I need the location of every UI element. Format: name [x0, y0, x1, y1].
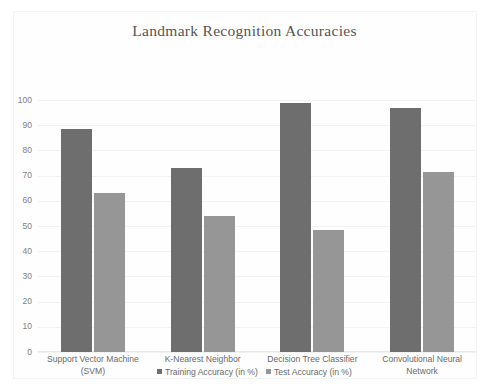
bar-test [94, 193, 125, 352]
y-axis-tick-label: 70 [4, 171, 32, 180]
bar-training [280, 103, 311, 352]
legend-item-test[interactable]: Test Accuracy (in %) [266, 365, 352, 378]
plot-area [38, 100, 477, 352]
y-axis-tick-label: 10 [4, 322, 32, 331]
bar-test [204, 216, 235, 352]
chart-title: Landmark Recognition Accuracies [0, 22, 489, 40]
y-axis-tick-label: 90 [4, 121, 32, 130]
bar-training [390, 108, 421, 352]
x-axis-category-label: K-Nearest Neighbor [148, 354, 258, 366]
x-axis-label-line: Network [406, 366, 438, 376]
x-axis-label-line: Support Vector Machine [47, 354, 139, 364]
gridline [38, 352, 477, 353]
y-axis-tick-label: 60 [4, 196, 32, 205]
bar-training [171, 168, 202, 352]
bar-test [313, 230, 344, 352]
legend-label-test: Test Accuracy (in %) [274, 367, 352, 377]
y-axis: 0102030405060708090100 [0, 100, 38, 352]
x-axis-label-line: K-Nearest Neighbor [165, 354, 241, 364]
y-axis-tick-label: 100 [4, 96, 32, 105]
x-axis-label-line: Decision Tree Classifier [267, 354, 357, 364]
gridline [38, 100, 477, 101]
legend-label-training: Training Accuracy (in %) [165, 367, 258, 377]
y-axis-tick-label: 40 [4, 247, 32, 256]
bar-training [61, 129, 92, 352]
y-axis-tick-label: 30 [4, 272, 32, 281]
y-axis-tick-label: 0 [4, 348, 32, 357]
bar-test [423, 172, 454, 352]
y-axis-tick-label: 80 [4, 146, 32, 155]
y-axis-tick-label: 20 [4, 297, 32, 306]
x-axis-category-label: Convolutional NeuralNetwork [367, 354, 477, 377]
x-axis-category-label: Decision Tree Classifier [258, 354, 368, 366]
x-axis-label-line: Convolutional Neural [382, 354, 462, 364]
legend-swatch-test-icon [266, 369, 271, 374]
x-axis-category-label: Support Vector Machine(SVM) [38, 354, 148, 377]
legend-swatch-training-icon [157, 369, 162, 374]
x-axis-label-line: (SVM) [81, 366, 105, 376]
chart-container: Landmark Recognition Accuracies 01020304… [0, 0, 489, 392]
y-axis-tick-label: 50 [4, 222, 32, 231]
legend-item-training[interactable]: Training Accuracy (in %) [157, 365, 258, 378]
